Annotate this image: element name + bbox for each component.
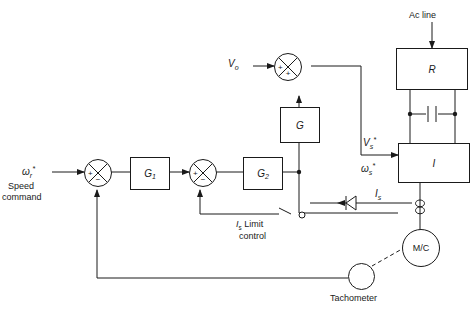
- summer1-bottom-sign: −: [96, 175, 101, 184]
- tachometer-label: Tachometer: [330, 293, 377, 304]
- summer3-bottom-sign: +: [286, 69, 291, 78]
- voltage-command-summer: + +: [274, 53, 302, 81]
- induction-machine: M/C: [402, 229, 440, 267]
- voltage-command-label: Vs*: [363, 134, 376, 152]
- ac-line-label: Ac line: [409, 10, 436, 21]
- speed-controller-block: G1: [130, 157, 170, 190]
- summer3-left-sign: +: [278, 63, 283, 72]
- current-error-summer: + −: [189, 159, 217, 187]
- rectifier-block: R: [396, 48, 468, 90]
- tachometer: [348, 263, 375, 290]
- voltage-gain-block: G: [280, 107, 320, 143]
- speed-command-label-line2: command: [2, 192, 42, 203]
- limit-control-label-line2: control: [239, 231, 266, 242]
- speed-error-summer: + −: [84, 159, 112, 187]
- speed-command-label-line1: Speed: [8, 181, 34, 192]
- summer2-bottom-sign: −: [201, 175, 206, 184]
- block-diagram-canvas: ωr* Speed command Vo Ac line + − + − + +…: [0, 0, 473, 317]
- current-controller-block: G2: [243, 157, 283, 190]
- summer2-left-sign: +: [193, 169, 198, 178]
- summer1-left-sign: +: [88, 169, 93, 178]
- current-feedback-label: Is: [375, 188, 381, 203]
- inverter-block: I: [398, 143, 470, 183]
- speed-command-symbol: ωr*: [22, 163, 35, 181]
- voltage-offset-label: Vo: [228, 58, 239, 73]
- slip-command-label: ωs*: [361, 160, 375, 178]
